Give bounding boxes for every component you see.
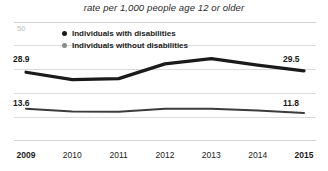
series-line-without-disabilities <box>26 109 304 113</box>
legend-label-with-disabilities: Individuals with disabilities <box>72 29 176 38</box>
legend-item-with-disabilities: Individuals with disabilities <box>62 28 188 39</box>
data-label-without-disabilities-start: 13.6 <box>13 98 30 108</box>
legend-marker-circle-icon <box>62 43 67 48</box>
x-axis-tick-2011: 2011 <box>110 150 128 160</box>
x-axis-tick-2012: 2012 <box>156 150 175 160</box>
series-line-with-disabilities <box>26 59 304 80</box>
legend-label-without-disabilities: Individuals without disabilities <box>72 41 188 50</box>
x-axis-tick-2009: 2009 <box>17 150 36 160</box>
chart-title: rate per 1,000 people age 12 or older <box>0 2 328 13</box>
line-chart: rate per 1,000 people age 12 or older 50… <box>0 0 328 171</box>
legend: Individuals with disabilities Individual… <box>62 28 188 52</box>
x-axis-tick-2010: 2010 <box>63 150 82 160</box>
x-axis-tick-2015: 2015 <box>295 150 314 160</box>
data-label-with-disabilities-start: 28.9 <box>13 54 30 64</box>
x-axis-tick-2013: 2013 <box>202 150 221 160</box>
data-label-with-disabilities-end: 29.5 <box>283 54 300 64</box>
legend-marker-circle-icon <box>62 31 67 36</box>
legend-item-without-disabilities: Individuals without disabilities <box>62 40 188 51</box>
data-label-without-disabilities-end: 11.8 <box>283 98 299 108</box>
x-axis: 2009201020112012201320142015 <box>14 150 316 164</box>
x-axis-tick-2014: 2014 <box>248 150 267 160</box>
